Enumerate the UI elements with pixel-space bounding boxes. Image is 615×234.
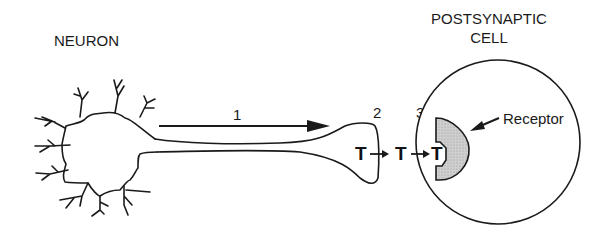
transmitter-in-terminal: T <box>355 143 367 164</box>
neuron-label: NEURON <box>54 32 119 49</box>
transmitter-in-cleft: T <box>395 143 407 164</box>
postsynaptic-label-line1: POSTSYNAPTIC <box>431 10 547 27</box>
propagation-arrow <box>159 120 330 132</box>
transmitter-bound-to-receptor: T <box>431 143 443 164</box>
step-1-label: 1 <box>233 106 241 123</box>
step-2-label: 2 <box>373 104 381 121</box>
postsynaptic-label-line2: CELL <box>470 29 508 46</box>
neuron-cell-body <box>35 80 157 216</box>
receptor-label: Receptor <box>503 110 564 127</box>
axon <box>155 123 379 183</box>
neuron-synapse-diagram: NEURON POSTSYNAPTIC CELL 1 2 3 Receptor … <box>0 0 615 234</box>
